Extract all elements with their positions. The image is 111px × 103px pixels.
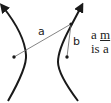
left-focus-point — [12, 55, 15, 58]
right-focus-point — [65, 55, 68, 58]
side-text-prefix: a — [91, 27, 100, 42]
side-text-line2: is a — [91, 42, 109, 55]
right-branch-curve — [58, 7, 81, 101]
side-text-underlined: m — [100, 27, 110, 42]
label-a: a — [38, 25, 45, 38]
left-branch-curve — [3, 7, 26, 101]
label-b: b — [73, 35, 80, 48]
side-text-line1: a m — [91, 28, 110, 41]
curve-point — [69, 22, 72, 25]
